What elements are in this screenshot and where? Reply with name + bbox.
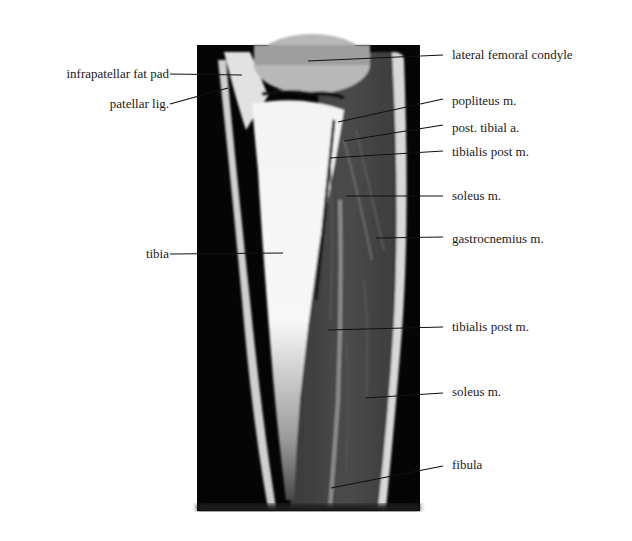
label-lateral-femoral-condyle: lateral femoral condyle [452,47,573,62]
label-tibia: tibia [146,246,169,261]
label-gastrocnemius-m: gastrocnemius m. [452,231,544,246]
label-soleus-m-1: soleus m. [452,188,501,203]
label-post-tibial-a: post. tibial a. [452,120,519,135]
label-popliteus-m: popliteus m. [452,93,516,108]
label-patellar-lig: patellar lig. [110,96,169,111]
mri-figure: infrapatellar fat pad patellar lig. tibi… [0,0,632,541]
label-fibula: fibula [452,457,482,472]
mri-image [0,0,632,541]
label-infrapatellar-fat-pad: infrapatellar fat pad [67,66,170,81]
label-tibialis-post-m-2: tibialis post m. [452,319,529,334]
label-soleus-m-2: soleus m. [452,384,501,399]
label-tibialis-post-m-1: tibialis post m. [452,144,529,159]
